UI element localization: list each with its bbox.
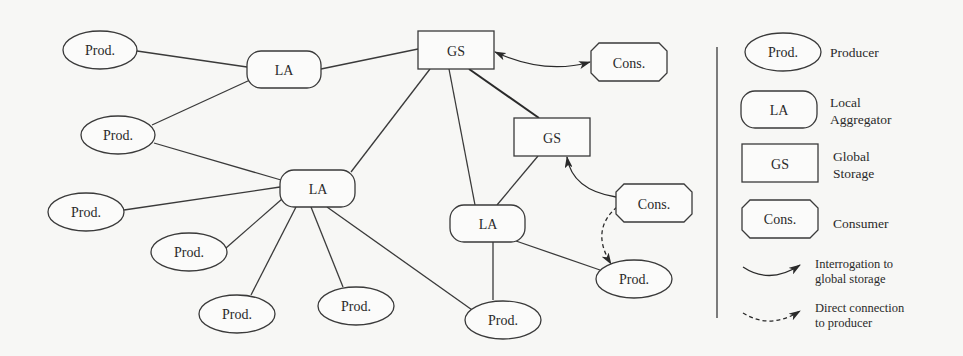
edge-prod3-la2	[124, 187, 280, 210]
edge-la3-prod8	[516, 241, 600, 270]
node-label: Cons.	[613, 56, 645, 71]
legend-item-interrogation: Interrogation to global storage	[743, 257, 893, 286]
legend-item-global-storage: GS Global Storage	[742, 144, 874, 182]
local-aggregator-node-2: LA	[280, 170, 355, 207]
consumer-node-1: Cons.	[591, 43, 667, 81]
edges	[124, 49, 617, 312]
legend-description-line2: Aggregator	[830, 112, 892, 127]
node-label: Prod.	[222, 307, 252, 322]
node-label: LA	[309, 182, 329, 197]
node-label: Prod.	[174, 245, 204, 260]
legend-symbol-label: Prod.	[768, 45, 798, 60]
legend-item-direct-connection: Direct connection to producer	[743, 301, 905, 330]
legend-description-line2: to producer	[815, 316, 873, 330]
edge-prod6-la2	[311, 207, 343, 287]
edge-la1-gs1	[321, 49, 418, 69]
legend-description: Consumer	[833, 216, 889, 231]
legend-item-local-aggregator: LA Local Aggregator	[741, 91, 892, 128]
producer-node-5: Prod.	[199, 295, 275, 333]
node-label: Prod.	[488, 313, 518, 328]
producer-node-1: Prod.	[63, 31, 137, 69]
legend-description-line1: Direct connection	[815, 301, 905, 315]
producer-node-2: Prod.	[81, 116, 155, 154]
network-diagram: Prod. Prod. Prod. Prod. Prod. Prod. Prod…	[0, 0, 963, 356]
edge-gs1-la3	[449, 69, 475, 205]
legend-description-line1: Interrogation to	[815, 257, 893, 271]
consumer-node-2: Cons.	[616, 184, 692, 222]
producer-node-4: Prod.	[151, 233, 227, 271]
edge-prod4-la2	[226, 199, 282, 248]
edge-prod2-la1	[152, 80, 250, 125]
legend-item-consumer: Cons. Consumer	[742, 200, 889, 238]
global-storage-node-1: GS	[418, 31, 494, 69]
direct-connection-arrow-cons2-prod8	[602, 207, 617, 264]
solid-curved-arrow-icon	[743, 265, 800, 276]
node-label: Prod.	[619, 272, 649, 287]
interrogation-arrow-cons2-gs2	[567, 157, 616, 197]
edge-prod1-la1	[137, 51, 247, 67]
node-label: Cons.	[638, 197, 670, 212]
legend-description-line1: Global	[833, 149, 870, 164]
node-label: Prod.	[341, 299, 371, 314]
nodes: Prod. Prod. Prod. Prod. Prod. Prod. Prod…	[48, 31, 692, 339]
dashed-curved-arrow-icon	[743, 311, 800, 321]
legend-symbol-label: LA	[770, 103, 790, 118]
legend-item-producer: Prod. Producer	[745, 33, 879, 71]
edge-prod2-la2	[154, 143, 281, 180]
producer-node-3: Prod.	[48, 193, 124, 231]
interrogation-arrow-gs1-cons1	[495, 52, 590, 67]
legend-description: Producer	[830, 45, 879, 60]
producer-node-8: Prod.	[596, 260, 672, 298]
producer-node-7: Prod.	[465, 301, 541, 339]
node-label: Prod.	[85, 43, 115, 58]
node-label: GS	[543, 131, 561, 146]
legend-symbol-label: Cons.	[764, 212, 796, 227]
legend: Prod. Producer LA Local Aggregator GS Gl…	[717, 33, 905, 330]
global-storage-node-2: GS	[514, 118, 590, 156]
local-aggregator-node-3: LA	[450, 205, 525, 242]
node-label: LA	[479, 217, 499, 232]
edge-la2-gs1	[351, 69, 430, 172]
legend-description-line1: Local	[830, 95, 861, 110]
edge-gs1-gs2	[469, 69, 539, 118]
node-label: LA	[275, 63, 295, 78]
node-label: Prod.	[71, 205, 101, 220]
legend-description-line2: global storage	[815, 272, 886, 286]
producer-node-6: Prod.	[318, 287, 394, 325]
legend-description-line2: Storage	[833, 166, 874, 181]
local-aggregator-node-1: LA	[247, 51, 321, 88]
edge-la3-gs2	[497, 156, 538, 205]
node-label: GS	[447, 44, 465, 59]
legend-symbol-label: GS	[771, 157, 789, 172]
node-label: Prod.	[103, 128, 133, 143]
